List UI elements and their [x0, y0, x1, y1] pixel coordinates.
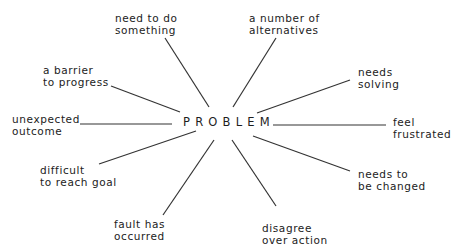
spoke-label-line: a number of [249, 12, 320, 24]
central-node-problem: PROBLEM [183, 115, 275, 129]
connector-line-a-number-of-alternatives [233, 38, 276, 107]
connector-line-a-barrier-to-progress [111, 86, 180, 112]
spoke-label-line: unexpected [12, 113, 80, 125]
spoke-label-need-to-do-something: need to dosomething [115, 12, 178, 36]
spoke-label-line: frustrated [393, 128, 451, 140]
spoke-label-line: something [115, 24, 178, 36]
spoke-label-unexpected-outcome: unexpectedoutcome [12, 113, 80, 137]
connector-line-fault-has-occurred [163, 140, 214, 215]
connector-line-needs-to-be-changed [253, 136, 350, 171]
spoke-label-line: over action [262, 234, 328, 246]
spoke-label-needs-solving: needssolving [358, 66, 399, 90]
spoke-label-a-barrier-to-progress: a barrierto progress [43, 64, 109, 88]
spoke-label-line: be changed [358, 180, 426, 192]
connector-line-need-to-do-something [165, 38, 209, 107]
spoke-label-a-number-of-alternatives: a number ofalternatives [249, 12, 320, 36]
spoke-label-line: a barrier [43, 64, 109, 76]
connector-line-difficult-to-reach-goal [99, 131, 196, 164]
spoke-label-line: to progress [43, 76, 109, 88]
spoke-label-line: needs [358, 66, 399, 78]
connector-line-disagree-over-action [232, 140, 276, 206]
spoke-label-fault-has-occurred: fault hasoccurred [114, 218, 165, 242]
spoke-label-line: solving [358, 78, 399, 90]
spoke-label-difficult-to-reach-goal: difficultto reach goal [40, 164, 117, 188]
spoke-label-line: to reach goal [40, 176, 117, 188]
spoke-label-feel-frustrated: feelfrustrated [393, 116, 451, 140]
spoke-label-line: disagree [262, 222, 328, 234]
spoke-label-line: outcome [12, 125, 80, 137]
spoke-label-needs-to-be-changed: needs tobe changed [358, 168, 426, 192]
spoke-label-line: difficult [40, 164, 117, 176]
spoke-label-line: alternatives [249, 24, 320, 36]
spoke-label-disagree-over-action: disagreeover action [262, 222, 328, 246]
connector-line-needs-solving [257, 80, 350, 113]
spoke-label-line: occurred [114, 230, 165, 242]
spoke-label-line: need to do [115, 12, 178, 24]
spoke-label-line: fault has [114, 218, 165, 230]
spoke-label-line: needs to [358, 168, 426, 180]
spoke-label-line: feel [393, 116, 451, 128]
